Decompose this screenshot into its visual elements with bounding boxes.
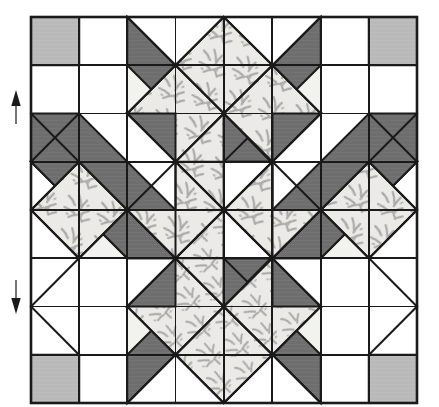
corner-square-top-right xyxy=(369,17,417,65)
corner-square-bottom-left xyxy=(31,355,79,403)
quilt-block-diagram xyxy=(0,0,439,407)
grainline-arrow-up xyxy=(11,90,20,124)
corner-square-top-left xyxy=(31,17,79,65)
corner-square-bottom-right xyxy=(369,355,417,403)
quilt-block-svg xyxy=(0,0,439,407)
grainline-arrow-down xyxy=(11,280,20,314)
